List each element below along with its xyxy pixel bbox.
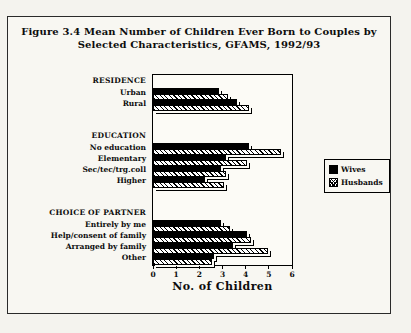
group-header-label: CHOICE OF PARTNER [49,208,146,217]
category-label: Urban [120,88,146,97]
axis-tick-label: 0 [146,270,160,279]
legend-label-husbands: Husbands [341,178,383,187]
figure-box: Figure 3.4 Mean Number of Children Ever … [7,16,391,314]
category-label: Sec/tec/trg.coll [82,165,146,174]
axis-tick-mark [176,266,177,269]
legend-item-husbands: Husbands [329,178,386,187]
figure-title-line1: Figure 3.4 Mean Number of Children Ever … [8,25,390,38]
legend: Wives Husbands [324,159,390,193]
axis-tick-label: 6 [285,270,299,279]
axis-tick-mark [153,266,154,269]
category-label: Entirely by me [85,220,146,229]
axis-tick-mark [268,266,269,269]
figure-title-line2: Selected Characteristics, GFAMS, 1992/93 [8,38,390,51]
category-label: Arranged by family [66,242,146,251]
axis-tick-mark [292,266,293,269]
figure-title: Figure 3.4 Mean Number of Children Ever … [8,25,390,51]
husbands-swatch-icon [329,178,338,187]
legend-item-wives: Wives [329,165,386,174]
axis-tick-mark [222,266,223,269]
category-labels: RESIDENCEUrbanRuralEDUCATIONNo education… [8,74,149,264]
group-header-label: RESIDENCE [93,76,146,85]
axis-tick-label: 1 [169,270,183,279]
page: { "title": { "line1": "Figure 3.4 Mean N… [0,0,411,333]
axis-tick-label: 4 [239,270,253,279]
axis-tick-label: 5 [262,270,276,279]
category-label: Other [122,253,146,262]
category-label: Elementary [98,154,146,163]
bar-husbands [153,182,224,188]
category-label: Rural [123,99,146,108]
category-label: Higher [117,176,146,185]
wives-swatch-icon [329,165,338,174]
axis-tick-label: 3 [216,270,230,279]
group-header-label: EDUCATION [92,131,146,140]
bar-husbands [153,259,212,265]
plot-area [152,74,293,266]
category-label: Help/consent of family [51,231,146,240]
bar-husbands [153,105,249,111]
x-axis-label: No. of Children [130,280,315,293]
axis-tick-mark [199,266,200,269]
axis-tick-label: 2 [192,270,206,279]
legend-label-wives: Wives [341,165,366,174]
axis-tick-mark [245,266,246,269]
category-label: No education [90,143,146,152]
